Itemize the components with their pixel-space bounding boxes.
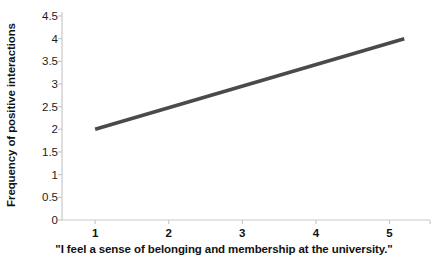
axes (62, 12, 430, 220)
chart-figure: Frequency of positive interactions 00.51… (0, 0, 448, 269)
x-axis-title: "I feel a sense of belonging and members… (0, 243, 448, 255)
plot-area (0, 0, 448, 269)
data-series-line (95, 39, 404, 130)
